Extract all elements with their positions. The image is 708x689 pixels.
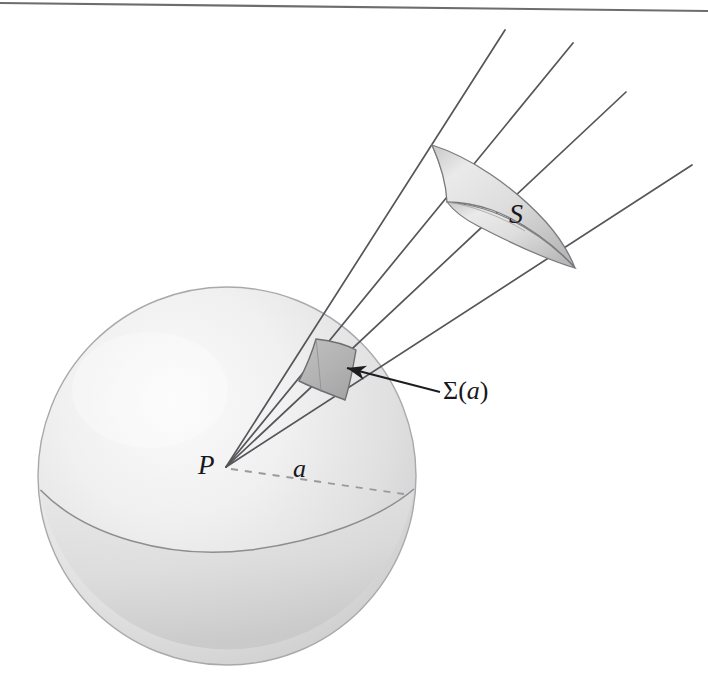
sphere-highlight [72, 332, 228, 448]
label-point-p: P [198, 452, 215, 479]
label-radius-a: a [293, 456, 306, 482]
page-top-rule [0, 3, 708, 11]
sigma-close-paren: ) [480, 376, 489, 405]
label-patch-sigma: Σ(a) [443, 378, 488, 404]
outer-surface-patch-S [432, 145, 575, 268]
sigma-argument: a [467, 376, 480, 405]
sphere-group [38, 287, 416, 665]
solid-angle-diagram [0, 0, 708, 689]
label-surface-s: S [509, 200, 523, 228]
cone-ray-3 [226, 92, 626, 467]
sigma-greek-glyph: Σ [443, 376, 458, 405]
sigma-open-paren: ( [458, 376, 467, 405]
figure-container: P a S Σ(a) [0, 0, 708, 689]
